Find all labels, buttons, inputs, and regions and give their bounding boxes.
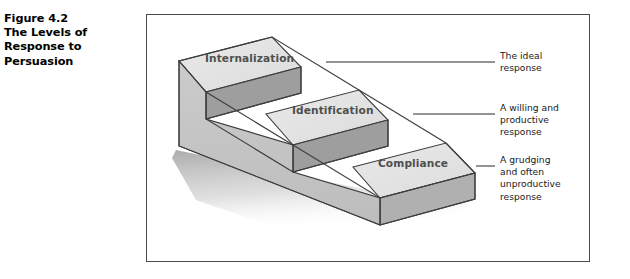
- caption-line-3: Response to: [4, 40, 134, 54]
- annotation-grudging-line-4: response: [500, 191, 586, 203]
- caption-line-4: Persuasion: [4, 55, 134, 69]
- annotation-ideal-line-2: response: [500, 62, 586, 74]
- caption-line-2: The Levels of: [4, 26, 134, 40]
- caption-line-1: Figure 4.2: [4, 12, 134, 26]
- annotation-grudging: A grudging and often unproductive respon…: [500, 154, 586, 203]
- figure-caption: Figure 4.2 The Levels of Response to Per…: [4, 12, 134, 69]
- annotation-willing: A willing and productive response: [500, 102, 586, 139]
- annotation-grudging-line-2: and often: [500, 166, 586, 178]
- figure-page: Figure 4.2 The Levels of Response to Per…: [0, 0, 630, 279]
- annotation-willing-line-3: response: [500, 126, 586, 138]
- annotation-grudging-line-1: A grudging: [500, 154, 586, 166]
- annotation-willing-line-1: A willing and: [500, 102, 586, 114]
- annotation-ideal: The ideal response: [500, 50, 586, 74]
- annotation-ideal-line-1: The ideal: [500, 50, 586, 62]
- step-label-compliance: Compliance: [378, 157, 448, 169]
- annotation-willing-line-2: productive: [500, 114, 586, 126]
- step-label-internalization: Internalization: [205, 52, 294, 64]
- annotation-grudging-line-3: unproductive: [500, 178, 586, 190]
- step-label-identification: Identification: [292, 104, 374, 116]
